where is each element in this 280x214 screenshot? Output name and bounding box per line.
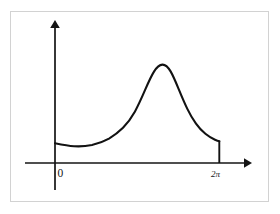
resonance-curve-path [55,65,219,147]
y-axis-arrow-icon [50,20,60,28]
x-axis-arrow-icon [244,158,252,168]
resonance-curve-chart: 0 2π [0,0,280,214]
figure-root: 0 2π [0,0,280,214]
x-axis-tick-label-two-pi: 2π [211,169,221,179]
x-axis-tick-label-origin: 0 [58,167,64,179]
